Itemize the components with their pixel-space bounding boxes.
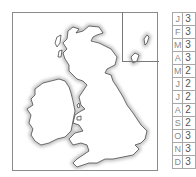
monthly-value-table: J 3 F 3 M 3 A 3 M 2 J 2 J 2 A 2 <box>172 12 196 169</box>
month-label: N <box>173 143 183 156</box>
anglesey <box>77 116 81 120</box>
month-label: M <box>173 39 183 52</box>
month-value: 2 <box>183 117 196 130</box>
table-row: J 2 <box>173 91 196 104</box>
month-value: 3 <box>183 52 196 65</box>
table-row: F 3 <box>173 26 196 39</box>
month-value: 3 <box>183 13 196 26</box>
month-label: A <box>173 52 183 65</box>
month-value: 3 <box>183 156 196 169</box>
month-value: 3 <box>183 143 196 156</box>
table-row: A 3 <box>173 52 196 65</box>
month-value: 2 <box>183 65 196 78</box>
table-row: O 3 <box>173 130 196 143</box>
table-row: M 2 <box>173 65 196 78</box>
month-value: 2 <box>183 78 196 91</box>
isle-of-man <box>77 103 80 108</box>
table-row: J 2 <box>173 78 196 91</box>
month-label: S <box>173 117 183 130</box>
month-value: 3 <box>183 26 196 39</box>
month-label: J <box>173 78 183 91</box>
month-label: O <box>173 130 183 143</box>
month-label: M <box>173 65 183 78</box>
month-label: D <box>173 156 183 169</box>
month-label: A <box>173 104 183 117</box>
table-row: S 2 <box>173 117 196 130</box>
month-label: F <box>173 26 183 39</box>
table-row: M 3 <box>173 39 196 52</box>
month-label: J <box>173 13 183 26</box>
hebrides <box>55 35 61 47</box>
month-value: 2 <box>183 104 196 117</box>
table-row: N 3 <box>173 143 196 156</box>
inset-box <box>122 12 159 62</box>
table-row: J 3 <box>173 13 196 26</box>
month-value: 3 <box>183 130 196 143</box>
month-value: 3 <box>183 39 196 52</box>
table-row: D 3 <box>173 156 196 169</box>
month-value: 2 <box>183 91 196 104</box>
month-label: J <box>173 91 183 104</box>
table-row: A 2 <box>173 104 196 117</box>
map-frame <box>12 12 158 171</box>
